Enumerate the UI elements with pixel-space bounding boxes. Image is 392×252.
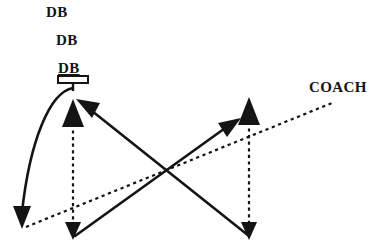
diagonal-to-upper-right-line (75, 126, 228, 236)
right-vertical-up-arrowhead (238, 97, 260, 125)
db-label-bottom: DB (58, 60, 80, 77)
curved-drop-path (22, 88, 73, 212)
db-label-top: DB (46, 4, 68, 21)
db-label-middle: DB (56, 32, 78, 49)
diagonal-to-upper-right-arrowhead (218, 118, 241, 137)
db-player-box (58, 76, 88, 83)
coach-label: COACH (309, 79, 367, 96)
left-vertical-down-arrowhead (65, 222, 81, 240)
